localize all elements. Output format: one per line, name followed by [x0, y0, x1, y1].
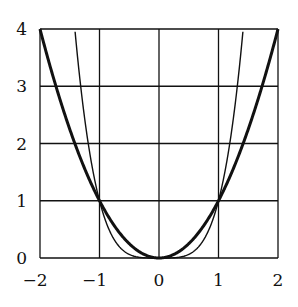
chart: −2−1012 01234	[0, 0, 298, 307]
x-tick-label: −2	[22, 270, 47, 290]
y-tick-label: 2	[16, 134, 27, 154]
x-tick-label: 0	[154, 270, 165, 290]
y-tick-label: 1	[16, 191, 27, 211]
y-tick-label: 3	[16, 76, 27, 96]
x-tick-label: −1	[82, 270, 107, 290]
x-tick-label: 2	[273, 270, 284, 290]
x-tick-label: 1	[213, 270, 224, 290]
y-tick-labels: 01234	[16, 19, 27, 268]
y-tick-label: 4	[16, 19, 27, 39]
x-tick-labels: −2−1012	[22, 270, 283, 290]
y-tick-label: 0	[16, 248, 27, 268]
